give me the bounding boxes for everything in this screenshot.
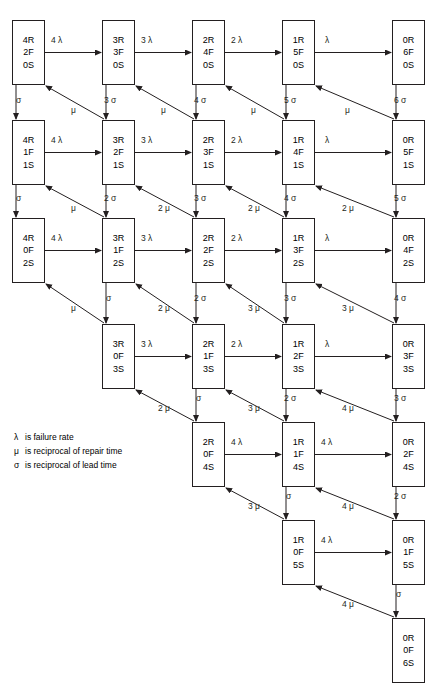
state-node-line: 0R [403,436,415,449]
edge-label-r5c5-to-r4c4: 4 μ [342,404,354,413]
state-node-line: 0S [23,59,34,72]
edge-label-r4c5-to-r3c4: 3 μ [342,304,354,313]
edge-label-r4c4-to-r3c3: 3 μ [248,304,260,313]
state-node-line: 0F [293,546,304,559]
state-node-r2c4: 1R4F1S [282,120,315,185]
edge-label-r5c3-to-r5c4: 4 λ [231,438,242,447]
state-node-line: 0R [403,134,415,147]
edge-diagonal-r7c5-to-r6c4 [316,586,394,617]
edge-label-r7c5-to-r6c4: 4 μ [342,600,354,609]
state-node-r3c3: 2R2F2S [192,218,225,283]
state-node-r3c5: 0R4F2S [392,218,425,283]
state-node-line: 1F [23,146,34,159]
state-node-line: 4S [403,461,414,474]
state-node-line: 3R [113,134,125,147]
edge-label-r3c3-to-r3c4: 2 λ [231,234,242,243]
state-node-line: 2R [203,436,215,449]
state-node-r4c3: 2R1F3S [192,324,225,389]
edge-label-r6c5-to-r7c5: σ [396,590,401,599]
legend-symbol-sigma: σ [14,458,25,472]
edge-label-r5c5-to-r6c5: 2 σ [394,492,406,501]
state-node-line: 0S [203,59,214,72]
state-node-line: 1R [293,232,305,245]
edge-label-r3c4-to-r3c5: λ [325,234,329,243]
state-node-line: 1R [293,338,305,351]
edge-diagonal-r3c5-to-r2c4 [316,186,394,217]
edge-label-r1c2-to-r2c2: 3 σ [104,96,116,105]
state-node-line: 1F [203,350,214,363]
state-node-line: 2F [113,146,124,159]
edge-label-r2c1-to-r2c2: 4 λ [51,136,62,145]
state-node-line: 0S [293,59,304,72]
state-node-line: 0R [403,632,415,645]
state-node-line: 6F [403,46,414,59]
edge-label-r1c4-to-r1c5: λ [325,36,329,45]
state-node-line: 2F [293,350,304,363]
state-node-line: 6S [403,657,414,670]
state-node-line: 3R [113,34,125,47]
state-node-line: 3S [113,363,124,376]
edge-label-r3c2-to-r2c1: μ [71,204,76,213]
edge-label-r2c5-to-r1c4: μ [345,106,350,115]
edge-label-r5c4-to-r6c4: σ [286,492,291,501]
edge-label-r3c2-to-r3c3: 3 λ [141,234,152,243]
state-node-r6c4: 1R0F5S [282,520,315,585]
state-node-line: 2R [203,232,215,245]
state-node-r1c3: 2R4F0S [192,20,225,85]
edge-label-r2c4-to-r2c5: λ [325,136,329,145]
edge-label-r1c4-to-r2c4: 5 σ [284,96,296,105]
legend-symbol-lambda: λ [14,430,25,444]
state-node-line: 3F [293,244,304,257]
state-node-line: 3F [403,350,414,363]
edge-label-r5c3-to-r4c2: 2 μ [158,404,170,413]
edge-label-r2c2-to-r1c1: μ [71,106,76,115]
edge-label-r3c4-to-r2c3: 2 μ [248,204,260,213]
state-node-line: 1F [403,546,414,559]
state-node-line: 2S [293,257,304,270]
state-node-r1c4: 1R5F0S [282,20,315,85]
state-node-r1c1: 4R2F0S [12,20,45,85]
state-node-line: 0F [403,644,414,657]
state-node-line: 0R [403,34,415,47]
edge-label-r6c4-to-r6c5: 4 λ [321,536,332,545]
edge-diagonal-r5c5-to-r4c4 [316,390,394,421]
state-node-line: 1R [293,134,305,147]
edge-label-r4c5-to-r5c5: 3 σ [394,394,406,403]
state-node-line: 0F [113,350,124,363]
state-node-line: 2R [203,34,215,47]
state-node-line: 0S [403,59,414,72]
state-node-line: 1F [113,244,124,257]
state-node-line: 0S [113,59,124,72]
edge-label-r3c3-to-r2c2: 2 μ [158,204,170,213]
state-node-line: 0R [403,534,415,547]
state-node-line: 4S [293,461,304,474]
state-node-line: 3S [293,363,304,376]
edge-label-r3c4-to-r4c4: 3 σ [284,294,296,303]
state-node-line: 4R [23,34,35,47]
state-node-r4c4: 1R2F3S [282,324,315,389]
edge-label-r2c2-to-r3c2: 2 σ [104,194,116,203]
edge-label-r4c2-to-r3c1: μ [71,304,76,313]
state-node-r3c4: 1R3F2S [282,218,315,283]
state-node-r3c2: 3R1F2S [102,218,135,283]
state-node-line: 3F [113,46,124,59]
state-node-line: 0R [403,338,415,351]
state-node-r1c5: 0R6F0S [392,20,425,85]
edge-label-r3c5-to-r2c4: 2 μ [342,204,354,213]
state-node-line: 1S [113,159,124,172]
state-node-r7c5: 0R0F6S [392,618,425,683]
edge-label-r4c3-to-r5c3: σ [196,394,201,403]
state-node-line: 2S [23,257,34,270]
edge-label-r3c5-to-r4c5: 4 σ [394,294,406,303]
state-node-line: 1S [403,159,414,172]
state-node-r5c3: 2R0F4S [192,422,225,487]
state-node-r2c3: 2R3F1S [192,120,225,185]
legend-text-sigma: is reciprocal of lead time [25,460,117,470]
state-node-line: 4S [203,461,214,474]
edge-label-r4c4-to-r5c4: 2 σ [284,394,296,403]
state-node-r5c4: 1R1F4S [282,422,315,487]
state-node-r2c5: 0R5F1S [392,120,425,185]
state-node-line: 5F [293,46,304,59]
state-node-line: 4F [203,46,214,59]
state-node-line: 3R [113,232,125,245]
